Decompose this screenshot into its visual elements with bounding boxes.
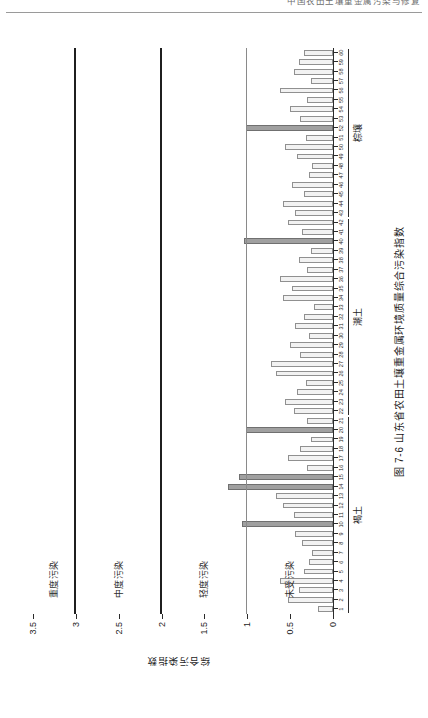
running-header: 中国农田土壤重金属污染与修复 [0,0,428,10]
x-tick-label-27: 27 [338,359,345,368]
x-tick-label-31: 31 [338,322,345,331]
x-tick-label-14: 14 [338,482,345,491]
x-tick-mark [334,457,338,458]
x-tick-mark [334,542,338,543]
x-tick-label-37: 37 [338,265,345,274]
x-tick-mark [334,118,338,119]
bar-sample-1 [318,606,333,612]
x-tick-mark [334,571,338,572]
bar-sample-35 [292,286,333,292]
x-tick-mark [334,476,338,477]
y-tick-label-0.5: 0.5 [285,622,295,654]
x-tick-mark [334,561,338,562]
x-tick-mark [334,552,338,553]
bar-sample-12 [283,503,333,509]
x-tick-label-6: 6 [338,557,345,566]
plot-frame: 1234567891011121314151617181920212223242… [34,48,334,614]
x-tick-mark [334,212,338,213]
band-label-轻度污染: 轻度污染 [197,560,210,598]
x-tick-mark [334,608,338,609]
x-tick-label-18: 18 [338,444,345,453]
x-tick-mark [334,137,338,138]
bar-sample-59 [299,59,333,65]
bar-sample-49 [297,154,333,160]
x-tick-label-43: 43 [338,208,345,217]
bar-sample-58 [294,69,333,75]
bar-sample-29 [290,342,333,348]
bar-sample-42 [288,220,333,226]
x-tick-mark [334,71,338,72]
x-tick-label-53: 53 [338,114,345,123]
group-rule-褐土 [348,417,349,613]
x-tick-mark [334,240,338,241]
x-tick-mark [334,467,338,468]
x-tick-label-49: 49 [338,152,345,161]
x-tick-mark [334,363,338,364]
bar-sample-40 [244,238,333,244]
x-tick-label-44: 44 [338,199,345,208]
x-tick-mark [334,599,338,600]
y-tick-label-1: 1 [242,622,252,654]
x-tick-mark [334,505,338,506]
bar-sample-43 [295,210,333,216]
x-tick-label-39: 39 [338,246,345,255]
x-tick-mark [334,155,338,156]
bar-sample-16 [307,465,333,471]
x-tick-label-24: 24 [338,388,345,397]
bar-sample-18 [300,446,333,452]
bar-sample-23 [285,399,333,405]
x-tick-label-26: 26 [338,369,345,378]
x-tick-label-20: 20 [338,425,345,434]
x-tick-label-3: 3 [338,586,345,595]
threshold-line-1 [246,48,247,614]
bar-sample-38 [299,257,333,263]
group-rule-潮土 [348,219,349,415]
x-tick-mark [334,127,338,128]
x-tick-mark [334,335,338,336]
y-tick-mark [204,614,205,619]
threshold-line-2 [160,48,161,614]
x-tick-mark [334,297,338,298]
x-tick-mark [334,80,338,81]
x-tick-label-48: 48 [338,161,345,170]
x-tick-label-38: 38 [338,256,345,265]
x-tick-label-55: 55 [338,95,345,104]
x-tick-mark [334,231,338,232]
bar-sample-15 [239,474,333,480]
figure-chart: 1234567891011121314151617181920212223242… [28,32,400,672]
x-tick-mark [334,316,338,317]
bar-sample-8 [302,540,333,546]
y-axis-title: 综合污染指数 [147,655,210,669]
bar-sample-27 [271,361,333,367]
x-tick-mark [334,146,338,147]
bar-sample-37 [307,267,333,273]
x-tick-mark [334,325,338,326]
y-tick-label-2: 2 [157,622,167,654]
bar-sample-32 [304,314,333,320]
x-tick-label-51: 51 [338,133,345,142]
x-tick-mark [334,372,338,373]
x-tick-label-22: 22 [338,406,345,415]
x-tick-mark [334,108,338,109]
x-tick-label-10: 10 [338,520,345,529]
x-tick-label-2: 2 [338,595,345,604]
y-tick-label-2.5: 2.5 [114,622,124,654]
bar-sample-11 [294,512,333,518]
x-tick-label-28: 28 [338,350,345,359]
x-tick-label-15: 15 [338,473,345,482]
bar-sample-26 [276,371,333,377]
x-tick-label-57: 57 [338,76,345,85]
x-tick-mark [334,203,338,204]
x-tick-mark [334,222,338,223]
bar-sample-7 [312,550,333,556]
x-tick-label-60: 60 [338,48,345,57]
running-header-text: 中国农田土壤重金属污染与修复 [287,0,420,6]
x-tick-label-4: 4 [338,576,345,585]
group-name-褐土: 褐土 [351,417,364,613]
x-tick-label-45: 45 [338,190,345,199]
bar-sample-20 [246,427,333,433]
bar-sample-48 [312,163,333,169]
band-label-未受污染: 未受污染 [283,560,296,598]
bar-sample-24 [297,389,333,395]
x-tick-mark [334,344,338,345]
